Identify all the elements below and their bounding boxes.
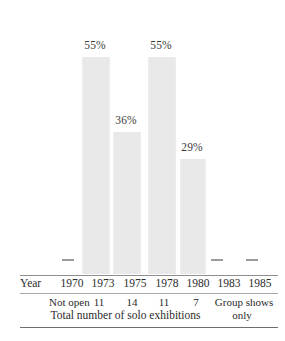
plot-area: 55% 36% 55% 29%	[0, 0, 285, 275]
axis-rule-top	[20, 275, 278, 276]
axis-rule-bottom	[20, 327, 278, 328]
year-axis-row: Year 1970 1973 1975 1978 1980 1983 1985	[0, 277, 285, 293]
bar-1978[interactable]	[148, 57, 176, 274]
count-cell-1975: 14	[120, 296, 144, 308]
no-data-dash-1970	[62, 259, 74, 261]
bar-value-label-1980: 29%	[175, 141, 209, 153]
year-tick-1973: 1973	[86, 277, 120, 289]
bar-value-label-1973: 55%	[78, 39, 112, 51]
no-data-dash-1985	[246, 259, 258, 261]
count-cell-1978: 11	[152, 296, 176, 308]
axis-rule-middle	[20, 293, 278, 294]
year-tick-1978: 1978	[150, 277, 184, 289]
bar-1980[interactable]	[180, 159, 206, 274]
year-tick-1983: 1983	[212, 277, 246, 289]
bar-chart-figure: 55% 36% 55% 29% Year 1970 1973 1975 1978…	[0, 0, 285, 341]
bar-value-label-1975: 36%	[109, 114, 143, 126]
count-cell-1983-group-shows: Group shows	[208, 296, 280, 308]
bar-1973[interactable]	[82, 57, 110, 274]
group-shows-only-note: only	[212, 309, 272, 321]
count-cell-1973: 11	[87, 296, 111, 308]
year-tick-1980: 1980	[181, 277, 215, 289]
counts-caption: Total number of solo exhibitions	[18, 309, 233, 321]
counts-caption-row: Total number of solo exhibitions only	[0, 309, 285, 325]
year-tick-1985: 1985	[243, 277, 277, 289]
year-tick-1970: 1970	[55, 277, 89, 289]
no-data-dash-1983	[211, 259, 223, 261]
year-axis-title: Year	[20, 277, 41, 289]
bar-value-label-1978: 55%	[144, 39, 178, 51]
bar-1975[interactable]	[113, 132, 141, 274]
count-cell-1980: 7	[184, 296, 208, 308]
year-tick-1975: 1975	[118, 277, 152, 289]
